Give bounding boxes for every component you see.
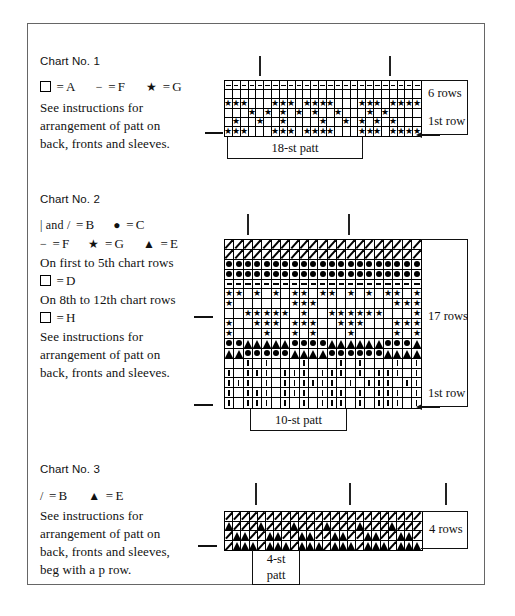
star-icon: ★ bbox=[300, 299, 308, 308]
grid-cell bbox=[225, 250, 234, 260]
chart-2-legend-val-4: E bbox=[170, 236, 178, 251]
grid-cell bbox=[412, 240, 421, 250]
grid-cell bbox=[291, 541, 299, 551]
grid-cell: ★ bbox=[262, 329, 271, 339]
grid-cell bbox=[412, 339, 421, 349]
grid-cell bbox=[244, 240, 253, 250]
grid-cell: ★ bbox=[280, 127, 288, 136]
grid-cell: ★ bbox=[384, 289, 393, 299]
grid-cell bbox=[337, 349, 346, 359]
grid-row: ★★★★★★★★ bbox=[225, 118, 421, 127]
grid-cell: ★ bbox=[374, 99, 382, 108]
grid-cell bbox=[346, 280, 355, 290]
grid-cell bbox=[384, 349, 393, 359]
dash-icon: − bbox=[40, 237, 47, 251]
grid-cell bbox=[225, 359, 234, 369]
grid-cell bbox=[372, 522, 380, 532]
grid-cell bbox=[296, 81, 304, 90]
grid-cell bbox=[249, 127, 257, 136]
grid-cell bbox=[403, 339, 412, 349]
chart-2-arrow-head bbox=[416, 404, 422, 410]
grid-cell bbox=[272, 299, 281, 309]
star-icon: ★ bbox=[337, 309, 345, 318]
grid-cell: ★ bbox=[393, 289, 402, 299]
grid-cell bbox=[356, 522, 364, 532]
grid-cell: ★ bbox=[249, 109, 257, 118]
star-icon: ★ bbox=[309, 329, 317, 338]
grid-cell bbox=[365, 369, 374, 379]
chart-3-tick-right bbox=[445, 483, 447, 505]
grid-cell bbox=[393, 369, 402, 379]
grid-cell bbox=[274, 541, 282, 551]
star-icon: ★ bbox=[328, 289, 336, 298]
grid-cell bbox=[225, 339, 234, 349]
chart-1-note-2: back, fronts and sleeves. bbox=[40, 136, 182, 152]
star-icon: ★ bbox=[225, 99, 232, 108]
grid-cell bbox=[382, 81, 390, 90]
grid-cell: ★ bbox=[234, 289, 243, 299]
star-icon: ★ bbox=[309, 299, 317, 308]
grid-cell bbox=[225, 118, 233, 127]
grid-cell: ★ bbox=[365, 309, 374, 319]
star-icon: ★ bbox=[309, 319, 317, 328]
grid-cell bbox=[233, 531, 241, 541]
star-icon: ★ bbox=[393, 299, 401, 308]
grid-cell bbox=[253, 280, 262, 290]
star-icon: ★ bbox=[235, 289, 243, 298]
grid-cell bbox=[266, 541, 274, 551]
grid-cell bbox=[225, 280, 234, 290]
grid-cell bbox=[309, 349, 318, 359]
grid-cell bbox=[281, 329, 290, 339]
grid-cell bbox=[253, 250, 262, 260]
chart-1-legend-val-2: G bbox=[172, 79, 182, 94]
grid-cell bbox=[253, 240, 262, 250]
grid-cell: ★ bbox=[303, 99, 311, 108]
grid-cell bbox=[262, 369, 271, 379]
grid-cell bbox=[351, 99, 359, 108]
star-icon: ★ bbox=[249, 109, 256, 118]
grid-cell bbox=[340, 522, 348, 532]
grid-row bbox=[225, 522, 422, 532]
chart-3-title: Chart No. 3 bbox=[40, 463, 170, 475]
star-icon: ★ bbox=[291, 289, 299, 298]
grid-cell bbox=[309, 260, 318, 270]
star-icon: ★ bbox=[390, 118, 397, 127]
grid-cell bbox=[234, 378, 243, 388]
grid-cell bbox=[253, 329, 262, 339]
grid-cell bbox=[323, 531, 331, 541]
grid-cell bbox=[262, 378, 271, 388]
grid-cell bbox=[234, 319, 243, 329]
grid-cell bbox=[225, 81, 233, 90]
grid-cell bbox=[403, 369, 412, 379]
chart-1-legend-eq-2: = bbox=[161, 79, 173, 94]
grid-cell bbox=[318, 309, 327, 319]
grid-cell bbox=[282, 512, 290, 522]
chart-2-legend-eq-4: = bbox=[159, 236, 171, 251]
grid-cell bbox=[290, 388, 299, 398]
grid-cell bbox=[262, 270, 271, 280]
grid-cell: ★ bbox=[319, 127, 327, 136]
grid-cell bbox=[319, 90, 327, 99]
grid-cell bbox=[309, 250, 318, 260]
grid-cell bbox=[234, 240, 243, 250]
grid-cell bbox=[356, 512, 364, 522]
chart-2-condition-val-1: H bbox=[66, 310, 76, 325]
grid-cell: ★ bbox=[256, 118, 264, 127]
chart-1-tick-right bbox=[389, 56, 391, 76]
grid-cell bbox=[328, 349, 337, 359]
grid-cell bbox=[328, 378, 337, 388]
grid-cell bbox=[282, 531, 290, 541]
grid-cell bbox=[374, 90, 382, 99]
grid-cell bbox=[375, 388, 384, 398]
grid-cell bbox=[300, 329, 309, 339]
grid-cell: ★ bbox=[233, 118, 241, 127]
grid-cell bbox=[315, 512, 323, 522]
grid-cell bbox=[413, 90, 421, 99]
star-icon: ★ bbox=[291, 319, 299, 328]
grid-cell bbox=[309, 398, 318, 408]
grid-cell bbox=[249, 118, 257, 127]
grid-cell bbox=[389, 531, 397, 541]
grid-cell bbox=[328, 250, 337, 260]
grid-cell bbox=[364, 512, 372, 522]
grid-cell bbox=[384, 359, 393, 369]
